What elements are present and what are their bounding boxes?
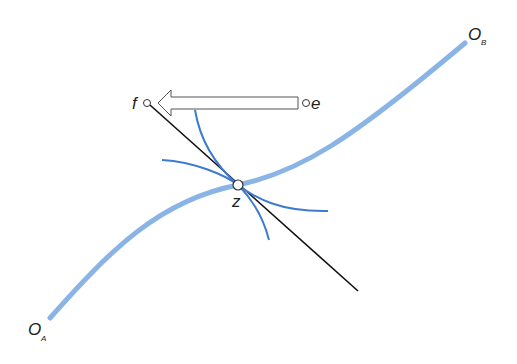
label-origin-a-sub: A <box>40 334 46 343</box>
diagram-canvas: f e z O A O B <box>0 0 517 364</box>
label-origin-b: O <box>468 25 481 44</box>
point-z-marker <box>233 180 243 190</box>
edgeworth-diagram: f e z O A O B <box>0 0 517 364</box>
point-e-marker <box>303 100 310 107</box>
arrow-e-to-f <box>158 90 298 116</box>
label-z: z <box>231 192 241 211</box>
label-f: f <box>132 94 139 113</box>
contract-curve <box>50 43 465 318</box>
label-origin-a: O <box>28 320 41 339</box>
label-origin-b-sub: B <box>481 38 487 47</box>
point-f-marker <box>144 100 151 107</box>
tangent-line <box>150 105 358 291</box>
indifference-curve-b <box>195 110 269 240</box>
label-e: e <box>311 94 320 113</box>
